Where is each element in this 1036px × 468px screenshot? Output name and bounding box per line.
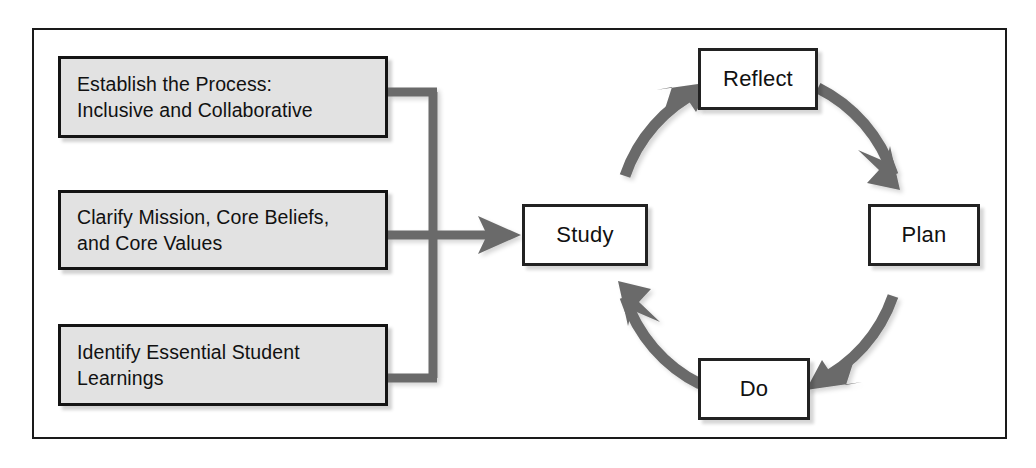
cycle-node-do[interactable]: Do	[698, 358, 810, 420]
cycle-node-label: Do	[740, 376, 769, 402]
diagram-canvas: Establish the Process: Inclusive and Col…	[0, 0, 1036, 468]
cycle-node-study[interactable]: Study	[522, 204, 648, 266]
cycle-node-label: Study	[556, 222, 613, 248]
cycle-node-reflect[interactable]: Reflect	[698, 48, 818, 110]
cycle-node-label: Reflect	[723, 66, 793, 92]
cycle-node-plan[interactable]: Plan	[868, 204, 980, 266]
cycle-node-label: Plan	[902, 222, 947, 248]
